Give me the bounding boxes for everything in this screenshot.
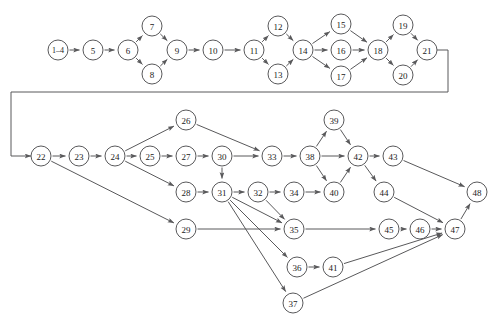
node-label-47: 47 [451,225,461,235]
node-33[interactable]: 33 [262,146,282,166]
node-31[interactable]: 31 [212,182,232,202]
node-label-26: 26 [182,116,192,126]
node-label-43: 43 [389,152,399,162]
node-label-32: 32 [254,188,263,198]
edge-42-to-44 [365,165,376,181]
node-label-29: 29 [182,225,192,235]
node-label-34: 34 [290,188,300,198]
node-label-20: 20 [399,71,409,81]
edge-40-to-42 [340,167,350,182]
edge-20-to-21 [411,60,418,67]
node-label-38: 38 [306,152,316,162]
node-44[interactable]: 44 [374,182,394,202]
node-22[interactable]: 22 [31,146,51,166]
edge-43-to-48 [404,161,465,187]
node-6[interactable]: 6 [118,40,138,60]
node-43[interactable]: 43 [383,146,403,166]
edge-47-to-48 [461,204,470,220]
node-label-48: 48 [473,188,483,198]
node-1-4[interactable]: 1–4 [48,40,68,60]
node-39[interactable]: 39 [324,110,344,130]
node-38[interactable]: 38 [300,146,320,166]
node-label-36: 36 [293,263,303,273]
diagram-canvas: 1–45678910111213141516171819202122232425… [0,0,502,326]
node-40[interactable]: 40 [324,182,344,202]
node-5[interactable]: 5 [83,40,103,60]
node-label-22: 22 [37,152,46,162]
node-label-19: 19 [399,21,409,31]
node-label-11: 11 [250,46,259,56]
node-label-31: 31 [218,188,227,198]
precedence-diagram: 1–45678910111213141516171819202122232425… [0,0,502,326]
node-15[interactable]: 15 [331,14,351,34]
node-label-46: 46 [416,225,426,235]
node-label-40: 40 [330,188,340,198]
edge-22-to-29 [51,161,174,223]
node-26[interactable]: 26 [176,110,196,130]
node-label-1-4: 1–4 [52,46,64,55]
node-24[interactable]: 24 [105,146,125,166]
node-label-25: 25 [146,152,156,162]
node-11[interactable]: 11 [244,40,264,60]
node-28[interactable]: 28 [176,182,196,202]
edge-6-to-8 [136,58,142,64]
edge-8-to-9 [160,59,167,66]
edge-11-to-13 [262,58,268,64]
edge-39-to-42 [340,130,350,145]
node-label-13: 13 [274,70,284,80]
node-42[interactable]: 42 [348,146,368,166]
node-9[interactable]: 9 [167,40,187,60]
node-23[interactable]: 23 [69,146,89,166]
node-32[interactable]: 32 [248,182,268,202]
node-20[interactable]: 20 [393,65,413,85]
node-17[interactable]: 17 [331,66,351,86]
edge-15-to-18 [350,31,367,43]
node-27[interactable]: 27 [176,146,196,166]
node-label-18: 18 [374,46,384,56]
node-35[interactable]: 35 [284,219,304,239]
node-25[interactable]: 25 [140,146,160,166]
edge-14-to-15 [312,32,329,44]
node-29[interactable]: 29 [176,219,196,239]
node-label-12: 12 [274,22,283,32]
node-label-28: 28 [182,188,192,198]
node-36[interactable]: 36 [287,257,307,277]
edge-38-to-39 [316,131,326,146]
node-14[interactable]: 14 [293,40,313,60]
node-label-9: 9 [175,46,180,56]
node-label-42: 42 [354,152,363,162]
node-34[interactable]: 34 [284,182,304,202]
node-37[interactable]: 37 [283,293,303,313]
node-48[interactable]: 48 [467,182,487,202]
node-label-35: 35 [290,225,300,235]
node-41[interactable]: 41 [323,257,343,277]
edge-7-to-9 [160,34,167,41]
node-label-8: 8 [150,70,155,80]
node-10[interactable]: 10 [203,40,223,60]
node-label-24: 24 [111,152,121,162]
node-label-23: 23 [75,152,85,162]
node-13[interactable]: 13 [268,64,288,84]
edge-38-to-40 [316,166,326,181]
node-label-17: 17 [337,72,347,82]
edge-14-to-17 [312,56,329,68]
node-30[interactable]: 30 [212,146,232,166]
node-12[interactable]: 12 [268,16,288,36]
node-8[interactable]: 8 [142,64,162,84]
node-47[interactable]: 47 [445,219,465,239]
node-46[interactable]: 46 [410,219,430,239]
edge-19-to-21 [411,33,418,40]
node-label-39: 39 [330,116,340,126]
node-label-45: 45 [385,225,395,235]
edge-17-to-18 [350,58,367,70]
node-19[interactable]: 19 [393,15,413,35]
node-label-16: 16 [337,46,347,56]
node-45[interactable]: 45 [379,219,399,239]
node-16[interactable]: 16 [331,40,351,60]
node-7[interactable]: 7 [142,16,162,36]
node-label-33: 33 [268,152,278,162]
node-label-7: 7 [150,22,155,32]
node-18[interactable]: 18 [368,40,388,60]
node-label-15: 15 [337,20,347,30]
node-21[interactable]: 21 [417,40,437,60]
